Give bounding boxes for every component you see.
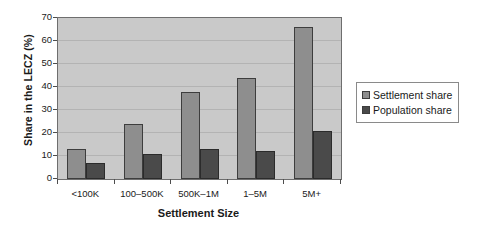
x-axis-tick-label: 5M+ — [302, 188, 321, 199]
bar — [313, 131, 332, 179]
x-axis-tick-mark — [170, 179, 171, 184]
x-axis-tick-mark — [340, 179, 341, 184]
y-axis-tick-label: 0 — [26, 173, 52, 182]
y-axis-tick-label: 70 — [26, 12, 52, 21]
bar — [143, 154, 162, 179]
legend-swatch-icon — [362, 106, 370, 114]
x-axis-tick-mark — [227, 179, 228, 184]
x-axis-tick-label: 1–5M — [243, 188, 267, 199]
legend-label: Settlement share — [373, 89, 452, 101]
x-axis-tick-mark — [114, 179, 115, 184]
legend: Settlement sharePopulation share — [356, 82, 459, 123]
y-axis-tick-label: 10 — [26, 150, 52, 159]
legend-label: Population share — [373, 104, 452, 116]
bar — [256, 151, 275, 179]
bar — [237, 78, 256, 179]
y-axis-tick-label: 40 — [26, 81, 52, 90]
y-axis-tick-label: 60 — [26, 35, 52, 44]
plot-area — [57, 17, 342, 180]
x-axis-tick-label: 500K–1M — [178, 188, 219, 199]
bar — [67, 149, 86, 179]
legend-item: Settlement share — [362, 87, 452, 102]
bar — [181, 92, 200, 179]
legend-item: Population share — [362, 102, 452, 117]
x-axis-tick-mark — [57, 179, 58, 184]
x-axis-title: Settlement Size — [57, 207, 340, 219]
y-axis-tick-label: 50 — [26, 58, 52, 67]
x-axis-tick-label: 100–500K — [120, 188, 163, 199]
bar — [200, 149, 219, 179]
bar — [86, 163, 105, 179]
y-axis-title: Share in the LECZ (%) — [22, 10, 34, 170]
legend-swatch-icon — [362, 91, 370, 99]
chart-figure: Share in the LECZ (%) 010203040506070 <1… — [0, 0, 486, 232]
x-axis-tick-label: <100K — [71, 188, 99, 199]
x-axis-tick-mark — [283, 179, 284, 184]
y-axis-tick-label: 20 — [26, 127, 52, 136]
bar — [294, 27, 313, 179]
bar — [124, 124, 143, 179]
y-axis-tick-label: 30 — [26, 104, 52, 113]
